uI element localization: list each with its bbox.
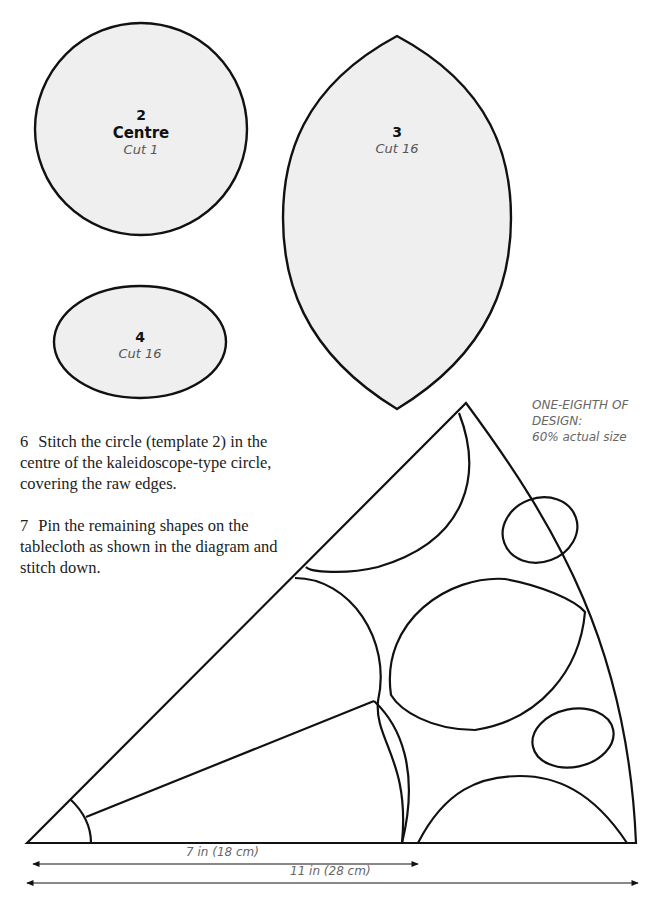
- step-text: Stitch the circle (template 2) in the ce…: [20, 432, 272, 493]
- template-4-cut-count: Cut 16: [90, 346, 190, 362]
- upper-half-leaf: [306, 413, 469, 572]
- dimension-label-short: 7 in (18 cm): [186, 845, 259, 859]
- template-2-label: 2 Centre Cut 1: [91, 107, 191, 158]
- instruction-step-7: 7Pin the remaining shapes on the tablecl…: [20, 515, 280, 578]
- dimension-label-long: 11 in (28 cm): [290, 864, 371, 878]
- template-3-leaf-shape: [283, 36, 511, 409]
- template-4-number: 4: [90, 329, 190, 346]
- template-2-name: Centre: [91, 124, 191, 142]
- template-4-label: 4 Cut 16: [90, 329, 190, 362]
- bottom-half-circle: [418, 776, 627, 843]
- caption-line-2: DESIGN:: [532, 413, 628, 429]
- caption-line-1: ONE-EIGHTH OF: [532, 397, 628, 413]
- template-2-number: 2: [91, 107, 191, 124]
- template-3-number: 3: [347, 124, 447, 141]
- instructions: 6Stitch the circle (template 2) in the c…: [20, 431, 280, 599]
- lower-large-leaf: [390, 579, 585, 730]
- spoke-line: [86, 701, 374, 817]
- page: 2 Centre Cut 1 3 Cut 16 4 Cut 16 6Stitch…: [0, 0, 656, 902]
- step-number: 6: [20, 432, 28, 451]
- caption-line-3: 60% actual size: [532, 429, 628, 445]
- corner-arc: [70, 799, 91, 843]
- step-text: Pin the remaining shapes on the tableclo…: [20, 516, 278, 577]
- template-3-label: 3 Cut 16: [347, 124, 447, 157]
- template-2-cut-count: Cut 1: [91, 142, 191, 158]
- lower-small-oval: [527, 701, 619, 775]
- diagram-caption: ONE-EIGHTH OF DESIGN: 60% actual size: [532, 397, 628, 445]
- upper-small-oval: [493, 487, 586, 573]
- step-number: 7: [20, 516, 28, 535]
- instruction-step-6: 6Stitch the circle (template 2) in the c…: [20, 431, 280, 494]
- template-3-cut-count: Cut 16: [347, 141, 447, 157]
